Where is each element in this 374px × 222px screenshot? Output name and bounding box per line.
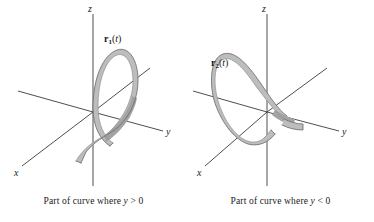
caption-left-relation: > 0 <box>128 196 143 206</box>
y-axis-negative-left <box>18 91 93 112</box>
figure-container: z y x r1(t) Part of curve where y > 0 <box>0 0 374 222</box>
caption-right: Part of curve where y < 0 <box>187 196 374 206</box>
plot-right: z y x r2(t) <box>187 0 374 196</box>
panel-right: z y x r2(t) Part of curve where y < 0 <box>187 0 374 222</box>
curve-label-r2-paren-close: ) <box>225 57 228 69</box>
z-axis-label-left: z <box>87 3 92 14</box>
curve-label-r1: r1(t) <box>104 33 121 46</box>
y-axis-label-right: y <box>341 126 347 137</box>
y-axis-negative-right <box>193 91 267 112</box>
panel-left: z y x r1(t) Part of curve where y > 0 <box>0 0 187 222</box>
caption-left: Part of curve where y > 0 <box>0 196 187 206</box>
ribbon-band-left <box>76 49 138 163</box>
caption-right-relation: < 0 <box>315 196 330 206</box>
y-axis-label-left: y <box>165 126 171 137</box>
caption-left-prefix: Part of curve where <box>44 196 124 206</box>
x-axis-label-left: x <box>13 167 19 178</box>
axes-and-curve-right: z y x r2(t) <box>187 0 374 196</box>
x-axis-label-right: x <box>196 167 202 178</box>
z-axis-label-right: z <box>261 3 266 14</box>
axes-and-curve-left: z y x r1(t) <box>0 0 187 196</box>
ribbon-inner-edge-left <box>76 55 133 161</box>
caption-right-prefix: Part of curve where <box>231 196 311 206</box>
curve-label-r1-paren-close: ) <box>118 33 121 45</box>
plot-left: z y x r1(t) <box>0 0 187 196</box>
x-axis-line-right <box>205 112 267 166</box>
